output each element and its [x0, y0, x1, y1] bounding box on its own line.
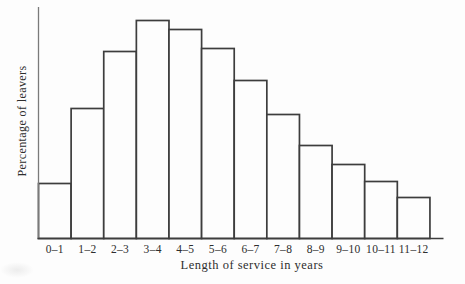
histogram-bar	[202, 49, 235, 239]
histogram-bar	[234, 81, 267, 239]
x-tick-label: 11–12	[399, 243, 429, 255]
histogram-bar	[169, 30, 202, 239]
x-tick-label: 0–1	[46, 243, 64, 255]
x-tick-label: 3–4	[144, 243, 162, 255]
x-tick-label: 5–6	[209, 243, 227, 255]
histogram-bar	[365, 182, 398, 239]
x-tick-label: 4–5	[176, 243, 194, 255]
histogram-bar	[299, 146, 332, 239]
histogram-bar	[332, 165, 365, 239]
histogram-plot: 0–11–22–33–44–55–66–77–88–99–1010–1111–1…	[0, 0, 465, 284]
x-tick-label: 6–7	[241, 243, 259, 255]
x-tick-label: 10–11	[366, 243, 396, 255]
x-tick-label: 1–2	[78, 243, 96, 255]
y-axis-title: Percentage of leavers	[15, 65, 30, 176]
histogram-bar	[71, 109, 104, 239]
x-tick-label: 8–9	[307, 243, 325, 255]
x-tick-label: 9–10	[336, 243, 360, 255]
histogram-bar	[136, 21, 169, 239]
x-tick-label: 2–3	[111, 243, 129, 255]
histogram-bar	[104, 52, 137, 239]
x-axis-title: Length of service in years	[181, 258, 324, 273]
histogram-bar	[39, 184, 72, 239]
histogram-figure: 0–11–22–33–44–55–66–77–88–99–1010–1111–1…	[0, 0, 465, 284]
histogram-bar	[267, 115, 300, 239]
histogram-bar	[397, 198, 430, 239]
x-tick-label: 7–8	[274, 243, 292, 255]
